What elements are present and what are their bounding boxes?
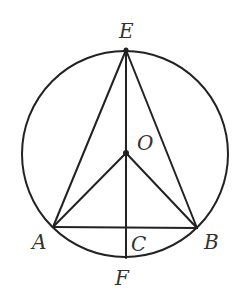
label-c: C (131, 232, 146, 256)
segment-ab (53, 227, 197, 228)
segment-ea (53, 50, 126, 227)
label-b: B (203, 230, 219, 254)
point-o-dot (123, 150, 129, 156)
segment-ob (126, 153, 197, 228)
label-a: A (30, 230, 46, 254)
label-f: F (114, 266, 130, 290)
label-o: O (137, 131, 153, 155)
geometry-diagram: E O A B C F (0, 0, 244, 303)
point-e-dot (124, 48, 129, 53)
label-e: E (118, 19, 134, 43)
segment-oa (53, 153, 126, 227)
